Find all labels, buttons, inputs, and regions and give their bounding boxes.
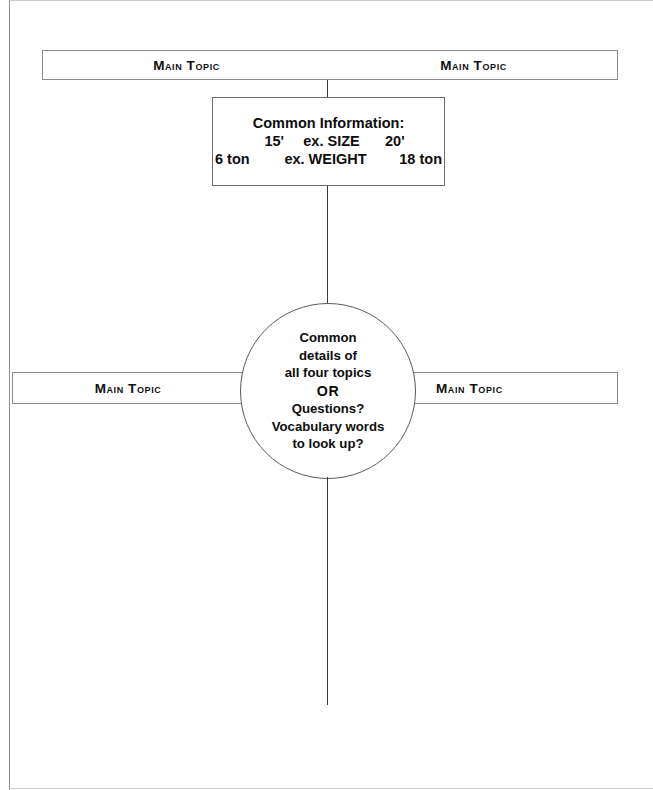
info-size-label: ex. SIZE <box>284 132 379 150</box>
info-weight-right-value: 18 ton <box>377 150 444 168</box>
common-information-title: Common Information: <box>253 115 404 132</box>
info-weight-left-value: 6 ton <box>213 150 274 168</box>
info-row-size: 15' ex. SIZE 20' <box>210 132 447 150</box>
connector-top-bar-to-info-box <box>327 80 328 98</box>
connector-circle-to-bottom <box>327 477 328 705</box>
page-border-top <box>9 0 653 1</box>
right-topic-bar[interactable]: Main Topic <box>413 372 618 404</box>
page-border-bottom <box>9 788 653 789</box>
top-topic-left-cell[interactable]: Main Topic <box>43 51 330 79</box>
page-border-left <box>9 0 10 790</box>
info-weight-label: ex. WEIGHT <box>274 150 377 168</box>
left-topic-bar[interactable]: Main Topic <box>12 372 244 404</box>
circle-line-or: OR <box>317 382 339 401</box>
top-topic-left-label: Main Topic <box>153 58 220 73</box>
top-topic-right-label: Main Topic <box>440 58 507 73</box>
top-topic-bar[interactable]: Main Topic Main Topic <box>42 50 618 80</box>
left-topic-label: Main Topic <box>95 381 162 396</box>
common-information-box[interactable]: Common Information: 15' ex. SIZE 20' 6 t… <box>212 97 445 186</box>
top-topic-right-cell[interactable]: Main Topic <box>330 51 617 79</box>
circle-line-1: Common <box>299 329 356 346</box>
circle-line-5: Questions? <box>292 400 365 417</box>
connector-info-box-to-circle <box>327 186 328 304</box>
circle-line-2: details of <box>299 347 357 364</box>
info-row-weight: 6 ton ex. WEIGHT 18 ton <box>213 150 444 168</box>
organizer-page: Main Topic Main Topic Common Information… <box>0 0 653 790</box>
info-size-left-value: 15' <box>216 132 284 150</box>
circle-line-6: Vocabulary words <box>272 418 385 435</box>
circle-line-3: all four topics <box>285 364 371 381</box>
info-size-right-value: 20' <box>379 132 447 150</box>
right-topic-label: Main Topic <box>436 381 503 396</box>
circle-line-7: to look up? <box>292 435 363 452</box>
center-circle[interactable]: Common details of all four topics OR Que… <box>240 303 416 479</box>
